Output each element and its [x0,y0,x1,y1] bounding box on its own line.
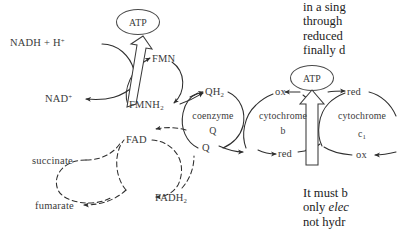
label-q: Q [202,142,210,153]
arc-q-to-cytb [219,146,243,152]
body-text-bottom-line-1: only elec [303,200,407,214]
label-cytb-red: red [278,148,293,159]
arc-fad-to-fadh2 [152,140,182,197]
atp-right-hollow-arrow [300,90,324,165]
figure-page: ATP ATP NADH + H+ NAD+ FMN FMNH2 succina… [0,0,407,240]
label-c1-red: red [347,86,362,97]
body-text-top-line-3: finally d [303,43,407,57]
body-text-bottom-line-1-pre: only [303,200,329,214]
body-text-bottom-line-2: not hydr [303,215,407,229]
label-c1-ox: ox [356,149,367,160]
label-cytb-center: b [280,125,285,136]
body-text-bottom-line-0-pre: It must b [303,186,348,200]
arc-cytb-red-arrow [258,150,276,154]
body-text-top: in a sing through reduced finally d [303,0,407,58]
label-succinate: succinate [32,155,73,166]
body-text-bottom-line-2-pre: not hydr [303,215,345,229]
arc-nadh-to-fmn [102,44,134,70]
body-text-bottom-line-1-em: elec [329,200,349,214]
atp-right-label: ATP [303,73,321,84]
label-cytb-title: cytochrome [259,110,308,121]
atp-left-label: ATP [129,17,147,28]
atp-left-hollow-arrow [127,36,152,107]
label-fumarate: fumarate [35,200,74,211]
arc-c1-red-arrow [328,91,345,92]
body-text-top-line-1: through [303,14,407,28]
arc-q-to-fad [156,128,186,130]
arc-fmn-to-fmnh2 [172,62,183,103]
arc-right-to-q [223,126,243,148]
label-cytb-ox: ox [275,86,286,97]
label-fmn: FMN [152,53,176,64]
arc-cytb-left-up [244,94,273,148]
label-nad: NAD+ [45,93,72,104]
label-coenzyme-q-center: Q [209,125,216,136]
label-c1-title: cytochrome [338,110,387,121]
label-fadh2: FADH2 [155,192,188,204]
body-text-top-line-0: in a sing [303,0,407,14]
label-coenzyme-q-title: coenzyme [192,110,234,121]
arc-succinate-loop [56,160,112,203]
label-fmnh2: FMNH2 [129,99,164,111]
label-nadh: NADH + H+ [10,37,65,48]
arc-c1-ox-arrow [375,152,396,155]
arc-succinate-to-fad [86,142,121,160]
label-c1-center: c1 [358,128,366,140]
label-qh2: QH2 [205,86,225,98]
arc-c1-left-down [324,147,352,155]
body-text-top-line-2: reduced [303,29,407,43]
body-text-bottom-line-0: It must b [303,186,407,200]
arc-fadh2-to-q [182,156,194,188]
body-text-bottom: It must b only elec not hydr [303,186,407,240]
arc-fmnh2-to-qh2 [180,93,203,104]
label-fad: FAD [126,134,147,145]
arc-fadh2-to-fad [117,140,126,190]
